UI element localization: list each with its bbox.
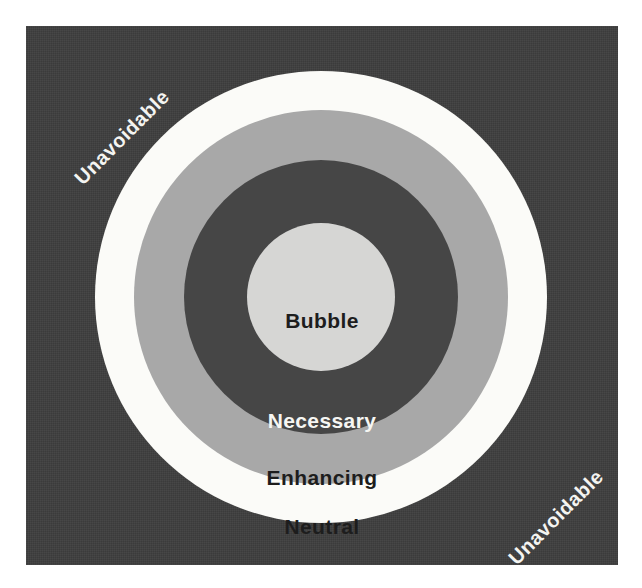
ring-label-neutral: Neutral [284, 515, 359, 539]
corner-label-unavoidable-bottom-right: Unavoidable [504, 465, 608, 565]
diagram-panel: Bubble Necessary Enhancing Neutral Unavo… [26, 26, 618, 565]
ring-label-bubble: Bubble [285, 309, 359, 333]
concentric-ring-diagram: Bubble Necessary Enhancing Neutral Unavo… [0, 0, 642, 588]
ring-label-necessary: Necessary [268, 409, 377, 433]
ring-bubble[interactable] [247, 223, 395, 371]
ring-label-enhancing: Enhancing [267, 466, 378, 490]
